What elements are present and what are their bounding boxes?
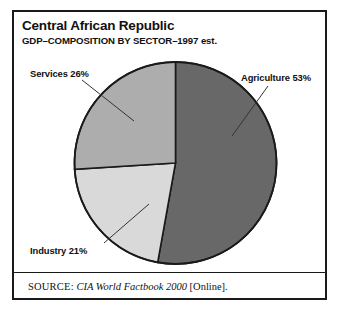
figure-page: Central African Republic GDP–COMPOSITION… — [0, 0, 342, 320]
source-note: SOURCE: CIA World Factbook 2000 [Online]… — [28, 281, 228, 292]
source-label: SOURCE: — [28, 281, 74, 292]
pie-label-agriculture: Agriculture 53% — [241, 72, 311, 83]
pie-label-services: Services 26% — [30, 68, 89, 79]
source-suffix: [Online]. — [190, 281, 228, 292]
pie-label-industry: Industry 21% — [30, 245, 87, 256]
source-publication: CIA World Factbook 2000 — [76, 281, 187, 292]
pie-slice-industry — [75, 163, 176, 262]
source-divider — [14, 272, 325, 273]
pie-slice-services — [74, 62, 175, 169]
